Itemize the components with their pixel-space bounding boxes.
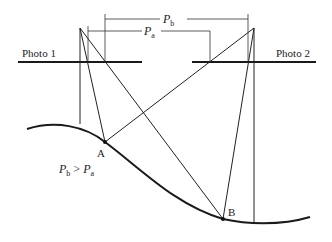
- ray-camera2-to-b: [223, 28, 254, 219]
- parallax-relation: Pb > Pa: [58, 162, 94, 178]
- pa-label: Pa: [143, 24, 155, 40]
- pb-label: Pb: [162, 12, 174, 28]
- photo1-label: Photo 1: [22, 47, 56, 59]
- stereo-parallax-diagram: Photo 1 Photo 2 Pb Pa A B Pb > Pa: [0, 0, 332, 242]
- photo2-label: Photo 2: [276, 47, 310, 59]
- ray-camera2-to-a: [105, 28, 254, 142]
- point-a-label: A: [97, 147, 105, 159]
- point-b-marker: [221, 217, 225, 221]
- point-b-label: B: [228, 206, 235, 218]
- point-a-marker: [103, 140, 107, 144]
